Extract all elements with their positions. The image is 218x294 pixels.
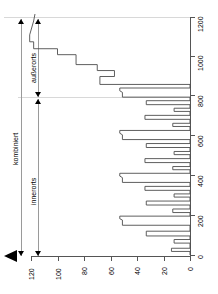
series-plot <box>0 0 218 294</box>
chart-figure: kombiniert außerorts innerorts 1200 1000… <box>0 0 218 294</box>
series-line <box>30 14 190 255</box>
